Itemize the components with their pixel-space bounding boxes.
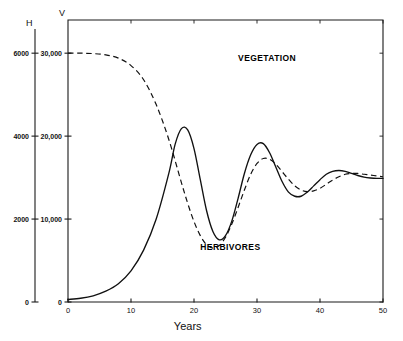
h-tick-label: 4000 xyxy=(13,133,29,140)
x-axis-tick-labels: 01020304050 xyxy=(66,306,387,315)
v-tick-label: 20,000 xyxy=(41,133,63,141)
x-tick-label: 40 xyxy=(316,306,324,315)
v-tick-label: 30,000 xyxy=(41,50,63,58)
h-axis-tick-labels: 0200040006000 xyxy=(13,50,29,306)
x-axis-ticks xyxy=(68,20,383,303)
data-series xyxy=(68,53,383,299)
x-tick-label: 30 xyxy=(253,306,261,315)
plot-frame xyxy=(68,20,383,302)
h-tick-label: 6000 xyxy=(13,50,29,57)
x-axis: 01020304050 Years xyxy=(66,20,387,332)
x-tick-label: 50 xyxy=(379,306,387,315)
x-tick-label: 0 xyxy=(66,306,70,315)
vegetation-curve xyxy=(68,53,383,248)
population-dynamics-chart: 0200040006000 H 010,00020,00030,000 V 01… xyxy=(0,0,403,341)
v-axis-ticks xyxy=(65,53,384,302)
h-tick-label: 0 xyxy=(25,299,29,306)
chart-figure: 0200040006000 H 010,00020,00030,000 V 01… xyxy=(0,0,403,341)
x-tick-label: 10 xyxy=(127,306,135,315)
v-tick-label: 10,000 xyxy=(41,216,63,224)
h-tick-label: 2000 xyxy=(13,216,29,223)
vegetation-series-label: VEGETATION xyxy=(238,53,296,63)
v-axis: 010,00020,00030,000 V xyxy=(41,8,383,306)
v-axis-letter: V xyxy=(59,8,65,18)
x-axis-title: Years xyxy=(174,320,202,332)
v-axis-tick-labels: 010,00020,00030,000 xyxy=(41,50,63,306)
h-axis-letter: H xyxy=(26,18,33,28)
herbivores-series-label: HERBIVORES xyxy=(200,242,260,252)
v-tick-label: 0 xyxy=(58,299,62,306)
x-tick-label: 20 xyxy=(190,306,198,315)
h-axis: 0200040006000 H xyxy=(13,18,38,306)
herbivores-curve xyxy=(68,127,383,299)
